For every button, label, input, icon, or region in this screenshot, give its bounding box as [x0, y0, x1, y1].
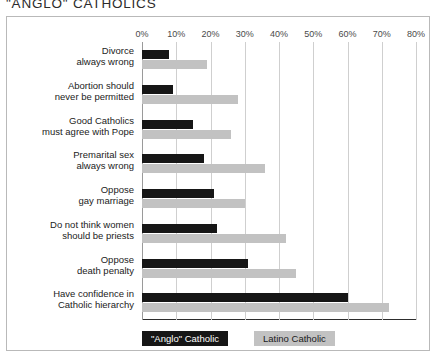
bar-group: [142, 251, 416, 286]
bar: [142, 189, 214, 198]
category-label-line: Good Catholics: [7, 115, 134, 126]
x-tick-label: 20%: [201, 29, 219, 39]
x-tick-label: 50%: [304, 29, 322, 39]
legend-item-label: Latino Catholic: [263, 333, 326, 344]
category-label: Divorcealways wrong: [7, 45, 134, 67]
bar-group: [142, 285, 416, 320]
category-label: Premarital sexalways wrong: [7, 149, 134, 171]
category-label: Have confidence inCatholic hierarchy: [7, 288, 134, 310]
bar-group: [142, 181, 416, 216]
bar: [142, 259, 248, 268]
bar: [142, 95, 238, 104]
category-label-line: Oppose: [7, 184, 134, 195]
bar: [142, 154, 204, 163]
bar: [142, 293, 348, 302]
category-label-line: Do not think women: [7, 219, 134, 230]
category-label-line: Oppose: [7, 254, 134, 265]
category-label: Opposegay marriage: [7, 184, 134, 206]
plot-area: [142, 42, 416, 320]
bar-group: [142, 216, 416, 251]
bar: [142, 50, 169, 59]
bar-group: [142, 112, 416, 147]
category-label-line: should be priests: [7, 230, 134, 241]
category-label-line: Abortion should: [7, 80, 134, 91]
chart-title: "ANGLO" CATHOLICS: [6, 0, 156, 11]
chart-frame: 0%10%20%30%40%50%60%70%80% Divorcealways…: [6, 16, 430, 351]
category-label-line: Catholic hierarchy: [7, 299, 134, 310]
x-tick-label: 10%: [167, 29, 185, 39]
x-tick-label: 30%: [236, 29, 254, 39]
x-tick-label: 0%: [135, 29, 148, 39]
x-tick-label: 60%: [338, 29, 356, 39]
gridline: [416, 42, 417, 320]
category-label-line: death penalty: [7, 265, 134, 276]
bar: [142, 199, 245, 208]
x-tick-label: 80%: [407, 29, 425, 39]
x-axis-tick-labels: 0%10%20%30%40%50%60%70%80%: [142, 29, 416, 43]
x-tick-label: 70%: [373, 29, 391, 39]
bar: [142, 234, 286, 243]
chart-legend: "Anglo" CatholicLatino Catholic: [142, 329, 335, 347]
bar: [142, 130, 231, 139]
category-label-line: always wrong: [7, 56, 134, 67]
legend-item-label: "Anglo" Catholic: [151, 333, 219, 344]
bar: [142, 303, 389, 312]
bar: [142, 269, 296, 278]
category-label-line: never be permitted: [7, 91, 134, 102]
category-label: Do not think womenshould be priests: [7, 219, 134, 241]
bar: [142, 164, 265, 173]
category-label-line: Have confidence in: [7, 288, 134, 299]
bar: [142, 224, 217, 233]
category-label-line: gay marriage: [7, 195, 134, 206]
category-label-line: Divorce: [7, 45, 134, 56]
bar-group: [142, 146, 416, 181]
category-label-line: always wrong: [7, 160, 134, 171]
x-tick-label: 40%: [270, 29, 288, 39]
category-label: Opposedeath penalty: [7, 254, 134, 276]
category-label: Good Catholicsmust agree with Pope: [7, 115, 134, 137]
legend-item[interactable]: Latino Catholic: [254, 331, 335, 346]
legend-item[interactable]: "Anglo" Catholic: [142, 331, 228, 346]
bar-group: [142, 77, 416, 112]
category-label: Abortion shouldnever be permitted: [7, 80, 134, 102]
bar: [142, 60, 207, 69]
category-label-line: Premarital sex: [7, 149, 134, 160]
bar: [142, 85, 173, 94]
bar-group: [142, 42, 416, 77]
category-label-line: must agree with Pope: [7, 126, 134, 137]
bar: [142, 120, 193, 129]
y-axis-category-labels: Divorcealways wrongAbortion shouldnever …: [7, 42, 138, 320]
